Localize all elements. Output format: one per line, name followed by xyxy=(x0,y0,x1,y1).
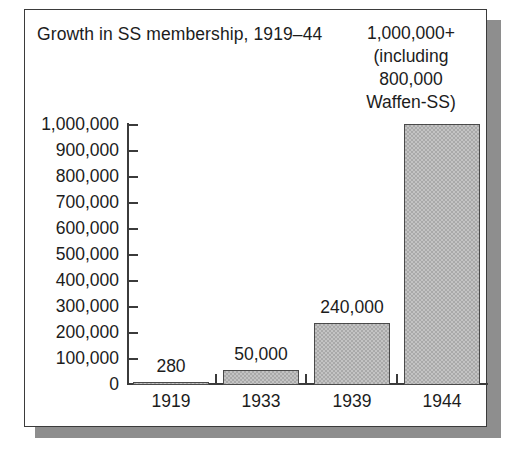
y-tick-mark-400000 xyxy=(129,280,138,282)
y-tick-mark-1000000 xyxy=(129,124,138,126)
y-tick-label-900000: 900,000 xyxy=(0,140,119,161)
y-tick-label-0: 0 xyxy=(0,374,119,395)
y-tick-label-600000: 600,000 xyxy=(0,218,119,239)
y-tick-label-800000: 800,000 xyxy=(0,166,119,187)
x-category-label-1919: 1919 xyxy=(152,391,191,412)
y-tick-mark-700000 xyxy=(129,202,138,204)
bar-value-label-1919: 280 xyxy=(156,356,185,377)
chart-frame: Growth in SS membership, 1919–44 1,000,0… xyxy=(24,9,487,427)
x-tick-mark-3 xyxy=(396,374,398,383)
chart-figure: Growth in SS membership, 1919–44 1,000,0… xyxy=(0,0,520,455)
y-tick-label-1000000: 1,000,000 xyxy=(0,114,119,135)
y-tick-mark-100000 xyxy=(129,358,138,360)
y-tick-label-500000: 500,000 xyxy=(0,244,119,265)
bar-1939[interactable] xyxy=(314,323,390,385)
y-tick-label-400000: 400,000 xyxy=(0,270,119,291)
bar-1944[interactable] xyxy=(404,124,480,385)
x-category-label-1933: 1933 xyxy=(242,391,281,412)
y-tick-mark-600000 xyxy=(129,228,138,230)
bar-value-label-1933: 50,000 xyxy=(234,344,288,365)
y-tick-mark-200000 xyxy=(129,332,138,334)
plot-area: 1,000,000 900,000 800,000 700,000 600,00… xyxy=(25,10,486,426)
y-tick-mark-300000 xyxy=(129,306,138,308)
bar-1933[interactable] xyxy=(223,370,299,385)
y-tick-label-100000: 100,000 xyxy=(0,348,119,369)
bar-1919[interactable] xyxy=(133,382,209,385)
y-tick-mark-800000 xyxy=(129,176,138,178)
y-tick-label-700000: 700,000 xyxy=(0,192,119,213)
x-category-label-1939: 1939 xyxy=(333,391,372,412)
y-tick-label-300000: 300,000 xyxy=(0,296,119,317)
y-tick-mark-900000 xyxy=(129,150,138,152)
x-category-label-1944: 1944 xyxy=(423,391,462,412)
x-tick-mark-2 xyxy=(305,374,307,383)
bar-value-label-1939: 240,000 xyxy=(320,297,383,318)
y-tick-label-200000: 200,000 xyxy=(0,322,119,343)
x-tick-mark-1 xyxy=(215,374,217,383)
y-tick-mark-500000 xyxy=(129,254,138,256)
